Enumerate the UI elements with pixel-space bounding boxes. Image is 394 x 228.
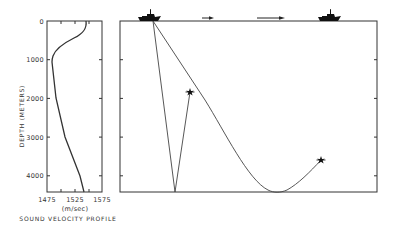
depth-label-1000: 1000 bbox=[26, 56, 44, 64]
velocity-label-1525: 1525 bbox=[66, 196, 84, 204]
profile-title: SOUND VELOCITY PROFILE bbox=[19, 215, 116, 222]
depth-label-4000: 4000 bbox=[26, 172, 44, 180]
velocity-label-1575: 1575 bbox=[93, 196, 111, 204]
sound-velocity-curve bbox=[52, 21, 86, 192]
ray-path-panel bbox=[120, 9, 377, 192]
refracted-ray bbox=[153, 21, 321, 192]
depth-label-2000: 2000 bbox=[26, 95, 44, 103]
depth-axis-title: DEPTH (METERS) bbox=[18, 85, 25, 147]
profile-frame bbox=[47, 21, 102, 192]
figure-canvas: 0 1000 2000 3000 4000 DEPTH (METERS) 147… bbox=[0, 0, 394, 228]
long-arrow-right-icon bbox=[257, 16, 285, 19]
ship-icon bbox=[138, 9, 161, 21]
star-marker-2 bbox=[317, 156, 326, 164]
sound-velocity-profile-panel: 0 1000 2000 3000 4000 DEPTH (METERS) 147… bbox=[18, 18, 117, 223]
short-arrow-right-icon bbox=[202, 16, 214, 19]
depth-label-3000: 3000 bbox=[26, 134, 44, 142]
ray-panel-frame bbox=[120, 21, 377, 192]
ship-icon bbox=[318, 9, 341, 21]
bottom-reflected-ray bbox=[153, 21, 190, 192]
velocity-label-1475: 1475 bbox=[38, 196, 56, 204]
depth-label-0: 0 bbox=[40, 18, 44, 26]
velocity-unit-label: (m/sec) bbox=[62, 205, 89, 213]
